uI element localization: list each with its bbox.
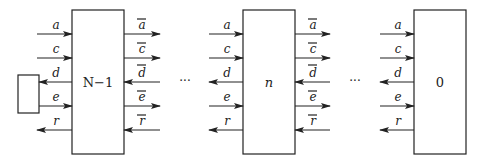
svg-text:e: e bbox=[223, 90, 230, 104]
svg-text:c: c bbox=[53, 42, 60, 56]
svg-text:c: c bbox=[310, 42, 317, 56]
svg-text:e: e bbox=[138, 90, 145, 104]
svg-text:a: a bbox=[52, 18, 59, 32]
block-n: n a c d e r a c d e r bbox=[209, 10, 330, 154]
block-label: 0 bbox=[436, 75, 444, 90]
svg-text:c: c bbox=[395, 42, 402, 56]
block-label: n bbox=[265, 75, 273, 90]
svg-text:r: r bbox=[310, 114, 317, 128]
svg-text:e: e bbox=[309, 90, 316, 104]
svg-text:d: d bbox=[138, 66, 146, 80]
block-n-minus-1: N−1 a c d e r a c d e r bbox=[37, 10, 160, 154]
cascade-diagram: N−1 a c d e r a c d e r ··· n a c bbox=[0, 0, 482, 166]
svg-text:e: e bbox=[394, 90, 401, 104]
svg-text:r: r bbox=[395, 114, 402, 128]
svg-text:a: a bbox=[223, 18, 230, 32]
svg-text:c: c bbox=[224, 42, 231, 56]
ellipsis-right: ··· bbox=[349, 74, 360, 88]
svg-text:d: d bbox=[309, 66, 317, 80]
ellipsis-left: ··· bbox=[179, 74, 190, 88]
svg-text:a: a bbox=[309, 18, 316, 32]
svg-text:a: a bbox=[394, 18, 401, 32]
svg-text:d: d bbox=[223, 66, 231, 80]
block-label: N−1 bbox=[83, 75, 114, 90]
svg-text:e: e bbox=[52, 90, 59, 104]
block-0: 0 a c d e r bbox=[380, 10, 466, 154]
svg-text:d: d bbox=[52, 66, 60, 80]
svg-text:r: r bbox=[224, 114, 231, 128]
svg-text:r: r bbox=[53, 114, 60, 128]
external-box bbox=[18, 75, 39, 113]
svg-text:r: r bbox=[139, 114, 146, 128]
svg-text:c: c bbox=[139, 42, 146, 56]
svg-text:a: a bbox=[138, 18, 145, 32]
svg-text:d: d bbox=[394, 66, 402, 80]
